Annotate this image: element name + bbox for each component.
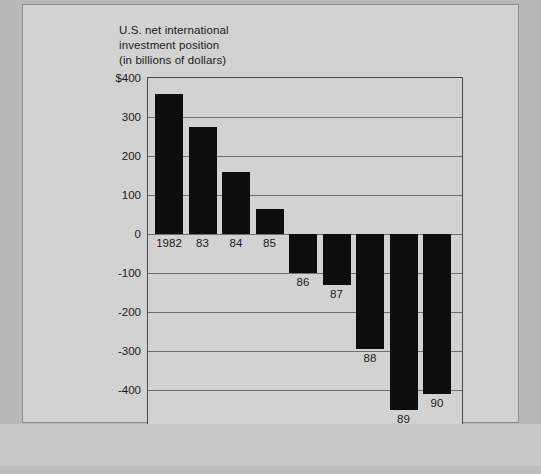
page-edge-strip: [0, 466, 541, 474]
bar: [323, 234, 351, 285]
category-label: 85: [263, 237, 276, 249]
y-axis-tick-label: 0: [135, 228, 141, 240]
chart-title-line-2: investment position: [119, 38, 229, 53]
figure-panel: U.S. net international investment positi…: [22, 4, 519, 423]
y-axis-tick-label: 200: [122, 150, 141, 162]
gridline: [148, 117, 462, 118]
category-label: 84: [230, 237, 243, 249]
category-label: 1982: [156, 237, 182, 249]
category-label: 87: [330, 288, 343, 300]
category-label: 88: [364, 352, 377, 364]
y-axis-tick-label: 300: [122, 111, 141, 123]
plot-area: $4003002001000-100-200-300-400-500 19828…: [147, 77, 463, 428]
bar: [222, 172, 250, 234]
y-axis-tick-label: -200: [118, 306, 141, 318]
chart-title: U.S. net international investment positi…: [119, 23, 229, 68]
bar: [289, 234, 317, 273]
bar: [256, 209, 284, 234]
category-label: 90: [431, 397, 444, 409]
chart-title-line-1: U.S. net international: [119, 23, 229, 38]
y-axis-tick-label: -100: [118, 267, 141, 279]
y-axis-tick-label: 100: [122, 189, 141, 201]
y-axis-tick-label: $400: [115, 72, 141, 84]
category-label: 89: [397, 413, 410, 425]
bar: [155, 94, 183, 234]
bar: [356, 234, 384, 349]
y-axis-tick-label: -400: [118, 384, 141, 396]
bar: [189, 127, 217, 234]
y-axis-tick-label: -300: [118, 345, 141, 357]
bar: [423, 234, 451, 394]
category-label: 86: [297, 276, 310, 288]
bar: [390, 234, 418, 410]
chart-title-line-3: (in billions of dollars): [119, 53, 229, 68]
category-label: 83: [196, 237, 209, 249]
